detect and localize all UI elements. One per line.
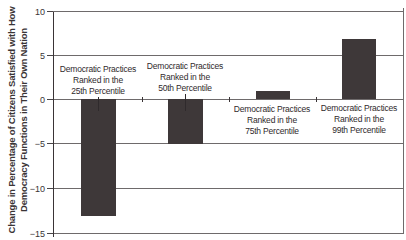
category-label-line: Ranked in the (314, 114, 404, 125)
y-tick-label: 0 (40, 95, 45, 105)
category-label-line: Democratic Practices (227, 104, 317, 115)
y-axis-title-line-2: Democracy Functions in Their Own Nation (18, 5, 30, 235)
category-label-75th: Democratic Practices Ranked in the 75th … (227, 104, 317, 137)
x-tick (142, 97, 143, 102)
y-axis-line (53, 12, 54, 237)
gridline-neg15 (53, 233, 404, 234)
category-label-line: Ranked in the (227, 115, 317, 126)
gridline-10 (53, 11, 404, 12)
category-label-99th: Democratic Practices Ranked in the 99th … (314, 103, 404, 136)
category-label-25th: Democratic Practices Ranked in the 25th … (53, 64, 143, 97)
category-label-line: Democratic Practices (140, 61, 230, 72)
x-tick (316, 97, 317, 102)
category-label-line: Democratic Practices (314, 103, 404, 114)
category-label-line: 50th Percentile (140, 83, 230, 94)
category-label-50th: Democratic Practices Ranked in the 50th … (140, 61, 230, 94)
bar-99th-percentile (342, 39, 376, 99)
y-tick-label: −15 (30, 229, 45, 239)
y-axis-title-line-1: Change in Percentage of Citizens Satisfi… (6, 5, 18, 235)
y-tick-label: −10 (30, 184, 45, 194)
category-label-line: 99th Percentile (314, 125, 404, 136)
label-leader-line (185, 94, 186, 111)
y-tick-label: −5 (35, 139, 45, 149)
bar-75th-percentile (256, 91, 290, 99)
y-axis-title-text: Change in Percentage of Citizens Satisfi… (6, 5, 30, 235)
category-label-line: Ranked in the (53, 75, 143, 86)
y-tick-label: 5 (40, 51, 45, 61)
category-label-line: 25th Percentile (53, 86, 143, 97)
category-label-line: Democratic Practices (53, 64, 143, 75)
y-axis-title: Change in Percentage of Citizens Satisfi… (0, 0, 36, 240)
category-label-line: 75th Percentile (227, 126, 317, 137)
bar-25th-percentile (81, 99, 116, 216)
category-label-line: Ranked in the (140, 72, 230, 83)
y-tick-label: 10 (35, 7, 45, 17)
label-leader-line (98, 97, 99, 111)
x-tick (229, 97, 230, 102)
